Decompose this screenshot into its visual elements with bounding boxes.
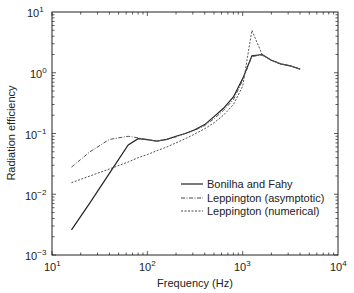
y-tick-label: 10−3 — [25, 248, 47, 262]
x-tick-label: 102 — [139, 259, 156, 273]
y-tick-labels: 101 100 10−1 10−2 10−3 — [25, 5, 47, 262]
y-tick-label: 10−2 — [25, 188, 47, 202]
y-tick-label: 10−1 — [25, 127, 47, 141]
radiation-efficiency-chart: 101 100 10−1 10−2 10−3 101 102 103 104 F… — [0, 0, 354, 293]
x-tick-label: 104 — [330, 259, 347, 273]
x-axis-title: Frequency (Hz) — [157, 277, 233, 289]
series-line-dashed — [72, 30, 301, 182]
y-axis-title: Radiation efficiency — [5, 85, 17, 181]
y-tick-label: 100 — [30, 66, 47, 80]
y-tick-label: 101 — [27, 5, 44, 19]
x-tick-label: 101 — [44, 259, 61, 273]
x-tick-labels: 101 102 103 104 — [44, 259, 347, 273]
legend-label: Bonilha and Fahy — [207, 178, 293, 190]
x-tick-label: 103 — [234, 259, 251, 273]
legend-label: Leppington (numerical) — [207, 205, 320, 217]
legend: Bonilha and Fahy Leppington (asymptotic)… — [181, 178, 324, 217]
series-line-dashdot — [72, 55, 301, 167]
legend-label: Leppington (asymptotic) — [207, 192, 324, 204]
